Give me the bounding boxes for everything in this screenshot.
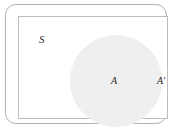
universal-set-rectangle: S A A′ bbox=[18, 16, 168, 119]
outer-rounded-frame: S A A′ bbox=[5, 4, 167, 124]
set-a-complement-label: A′ bbox=[157, 76, 165, 86]
universal-set-label: S bbox=[39, 34, 45, 45]
set-diagram: S A A′ bbox=[0, 0, 173, 131]
set-a-label: A bbox=[111, 76, 117, 86]
